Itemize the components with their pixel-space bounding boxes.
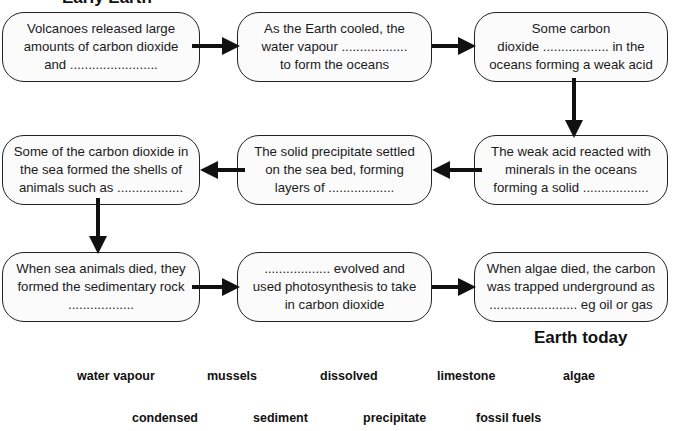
- arrow-right-icon: [192, 37, 240, 55]
- word-bank-item: dissolved: [320, 369, 378, 383]
- arrow-right-icon: [432, 37, 476, 55]
- arrow-down-icon: [565, 78, 583, 138]
- arrow-left-icon: [432, 161, 482, 179]
- arrow-left-icon: [200, 161, 245, 179]
- word-bank-item: limestone: [437, 369, 495, 383]
- heading-earth-today: Earth today: [534, 328, 628, 348]
- word-bank-item: algae: [563, 369, 595, 383]
- word-bank-item: fossil fuels: [476, 411, 541, 425]
- word-bank-item: water vapour: [77, 369, 155, 383]
- word-bank-item: sediment: [253, 411, 308, 425]
- word-bank-item: precipitate: [363, 411, 426, 425]
- arrows-layer: [0, 0, 682, 431]
- arrow-down-icon: [89, 198, 107, 254]
- word-bank-item: mussels: [207, 369, 257, 383]
- word-bank-item: condensed: [132, 411, 198, 425]
- arrow-right-icon: [192, 278, 240, 296]
- arrow-right-icon: [432, 278, 476, 296]
